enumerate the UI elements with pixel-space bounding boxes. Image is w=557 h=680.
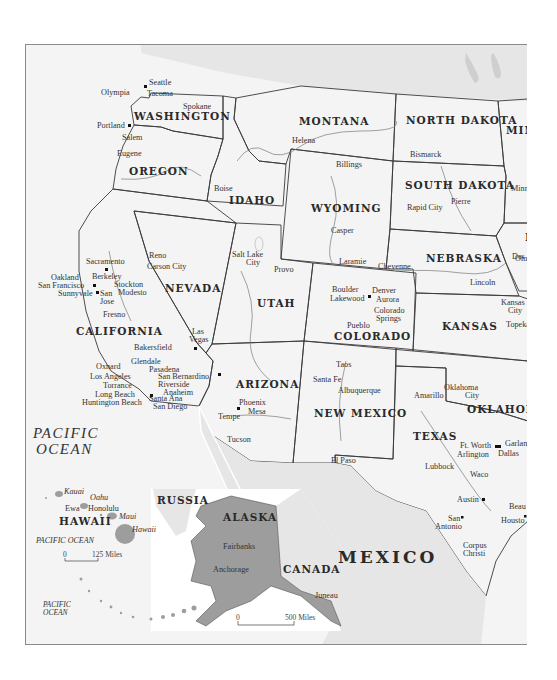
label-oklahoma: OKLAHOMA — [467, 403, 527, 415]
city-ewa: Ewa — [65, 504, 80, 513]
city-garland: Garlan — [505, 439, 527, 448]
label-pacific-ocean-hawaii: PACIFIC OCEAN — [35, 536, 95, 545]
city-helena: Helena — [292, 136, 316, 145]
label-alaska: ALASKA — [222, 511, 277, 523]
city-topeka: Topeka — [506, 320, 527, 329]
city-casper: Casper — [331, 226, 354, 235]
label-montana: MONTANA — [299, 115, 370, 127]
label-mexico: MEXICO — [338, 547, 437, 567]
city-corpus-christi-2: Christi — [463, 549, 486, 558]
city-dallas: Dallas — [498, 449, 519, 458]
city-honolulu: Honolulu — [88, 504, 119, 513]
city-cheyenne: Cheyenne — [378, 262, 411, 271]
great-salt-lake — [255, 237, 263, 251]
city-lubbock: Lubbock — [425, 462, 455, 471]
city-fresno: Fresno — [103, 310, 125, 319]
city-oklahoma-city-2: City — [465, 391, 480, 400]
city-amarillo: Amarillo — [414, 391, 444, 400]
oahu-island — [80, 503, 88, 509]
hawaii-scale-start: 0 — [63, 550, 67, 559]
city-beaumont: Beau — [509, 502, 526, 511]
label-new-mexico: NEW MEXICO — [314, 407, 407, 419]
city-olympia: Olympia — [101, 88, 130, 97]
hawaii-scale-end: 125 Miles — [92, 550, 122, 559]
city-las-vegas-2: Vegas — [189, 335, 209, 344]
label-idaho: IDAHO — [229, 194, 275, 206]
city-reno: Reno — [149, 251, 166, 260]
city-juneau: Juneau — [315, 591, 338, 600]
city-tacoma: Tacoma — [147, 89, 173, 98]
city-huntington-beach: Huntington Beach — [82, 398, 142, 407]
city-waco: Waco — [470, 470, 488, 479]
map-svg: WASHINGTON OREGON IDAHO MONTANA NORTH DA… — [26, 45, 527, 645]
label-minnesota: MIN — [506, 124, 527, 136]
label-nebraska: NEBRASKA — [426, 252, 502, 264]
city-san-diego: San Diego — [153, 402, 187, 411]
label-kansas: KANSAS — [442, 320, 498, 332]
city-tucson: Tucson — [227, 435, 251, 444]
label-colorado: COLORADO — [334, 330, 411, 342]
city-torrance: Torrance — [103, 381, 132, 390]
city-mesa: Mesa — [248, 407, 266, 416]
city-bakersfield: Bakersfield — [134, 343, 172, 352]
city-san-antonio-2: Antonio — [435, 522, 462, 531]
label-texas: TEXAS — [413, 430, 457, 442]
city-portland: Portland — [97, 121, 125, 130]
label-pacific-ocean-alaska-2: OCEAN — [43, 608, 69, 617]
alaska-scale-end: 500 Miles — [285, 613, 315, 622]
city-provo: Provo — [274, 265, 294, 274]
city-denver: Denver — [372, 286, 396, 295]
city-phoenix: Phoenix — [239, 398, 266, 407]
label-pacific-ocean-main-2: OCEAN — [36, 441, 93, 457]
city-rapid-city: Rapid City — [407, 203, 444, 212]
city-lincoln: Lincoln — [470, 278, 495, 287]
city-kauai: Kauai — [63, 487, 85, 496]
city-eugene: Eugene — [117, 149, 142, 158]
kauai-island — [55, 491, 63, 497]
city-carson-city: Carson City — [147, 262, 187, 271]
city-laramie: Laramie — [339, 257, 367, 266]
city-colorado-springs-2: Springs — [376, 314, 401, 323]
city-maui: Maui — [118, 512, 137, 521]
city-houston: Housto — [501, 516, 525, 525]
city-oahu: Oahu — [90, 493, 108, 502]
city-spokane: Spokane — [183, 102, 212, 111]
label-washington: WASHINGTON — [133, 110, 231, 122]
city-los-angeles: Los Angeles — [90, 372, 131, 381]
label-utah: UTAH — [257, 297, 295, 309]
city-anchorage: Anchorage — [213, 565, 249, 574]
city-lakewood: Lakewood — [330, 294, 365, 303]
label-nevada: NEVADA — [165, 282, 221, 294]
city-billings: Billings — [336, 160, 362, 169]
city-hawaii-island: Hawaii — [131, 525, 157, 534]
label-pacific-ocean-main-1: PACIFIC — [32, 425, 99, 441]
label-california: CALIFORNIA — [76, 325, 163, 337]
city-taos: Taos — [336, 360, 351, 369]
city-sacramento: Sacramento — [86, 257, 125, 266]
city-austin: Austin — [457, 495, 479, 504]
city-modesto: Modesto — [118, 288, 147, 297]
label-iowa: I — [525, 231, 527, 243]
alaska-scale-start: 0 — [236, 613, 240, 622]
city-albuquerque: Albuquerque — [338, 386, 381, 395]
label-arizona: ARIZONA — [235, 378, 299, 390]
label-canada: CANADA — [283, 563, 341, 575]
city-des-moines: Des — [512, 252, 525, 261]
label-north-dakota: NORTH DAKOTA — [406, 114, 517, 126]
city-minneapolis: Minn — [511, 184, 527, 193]
city-seattle: Seattle — [149, 78, 172, 87]
city-aurora: Aurora — [376, 295, 400, 304]
city-el-paso: El Paso — [331, 456, 356, 465]
map-frame: WASHINGTON OREGON IDAHO MONTANA NORTH DA… — [25, 44, 527, 645]
city-santa-fe: Santa Fe — [313, 375, 342, 384]
city-fairbanks: Fairbanks — [223, 542, 255, 551]
label-oregon: OREGON — [129, 165, 189, 177]
label-hawaii: HAWAII — [59, 515, 112, 527]
label-wyoming: WYOMING — [310, 202, 382, 214]
label-russia: RUSSIA — [157, 494, 209, 506]
city-salt-lake-city-2: City — [246, 258, 261, 267]
city-pueblo: Pueblo — [347, 321, 370, 330]
city-kansas-city-2: City — [508, 306, 523, 315]
city-tempe: Tempe — [218, 412, 241, 421]
city-salem: Salem — [122, 133, 143, 142]
